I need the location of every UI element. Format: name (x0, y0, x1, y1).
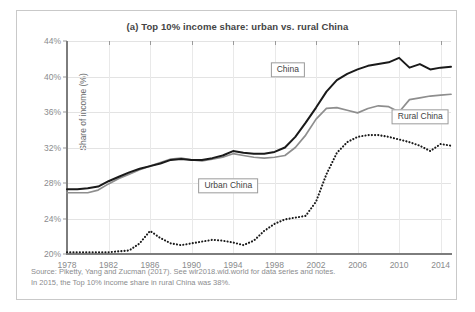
plot-area: Share of income (%) 20%24%28%32%36%40%44… (67, 41, 451, 254)
y-tick-label: 28% (44, 178, 61, 188)
y-tick-label: 36% (44, 107, 61, 117)
data-series-group (67, 41, 451, 254)
footnote-note: In 2015, the Top 10% income share in rur… (31, 277, 441, 289)
series-line-urban-china (67, 135, 451, 252)
y-tick-label: 20% (44, 249, 61, 259)
figure-footnote: Source: Piketty, Yang and Zucman (2017).… (31, 266, 441, 289)
y-tick-label: 44% (44, 36, 61, 46)
y-tick-label: 24% (44, 214, 61, 224)
y-tick-label: 32% (44, 143, 61, 153)
figure-panel: (a) Top 10% income share: urban vs. rura… (16, 10, 457, 300)
callout-china: China (271, 62, 305, 77)
footnote-source: Source: Piketty, Yang and Zucman (2017).… (31, 266, 441, 278)
y-tick-label: 40% (44, 72, 61, 82)
callout-rural-china: Rural China (392, 109, 449, 124)
callout-urban-china: Urban China (198, 178, 258, 193)
chart-title: (a) Top 10% income share: urban vs. rura… (17, 21, 458, 32)
